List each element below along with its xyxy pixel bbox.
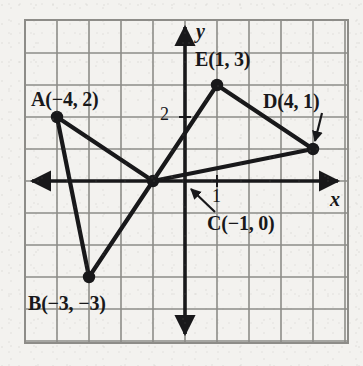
point-label-a: A(−4, 2) (31, 88, 99, 111)
point-label-e: E(1, 3) (195, 48, 250, 71)
plot-point-d (307, 143, 319, 155)
plot-point-a (51, 111, 63, 123)
point-label-b: B(−3, −3) (28, 292, 106, 315)
y-axis-tick-label-2: 2 (160, 104, 169, 125)
x-axis-label: x (330, 188, 340, 211)
y-axis-label: y (196, 20, 205, 43)
x-axis-tick-label-1: 1 (212, 186, 221, 207)
coordinate-plane-figure: A(−4, 2) B(−3, −3) C(−1, 0) D(4, 1) E(1,… (0, 0, 363, 366)
plot-point-c (147, 175, 159, 187)
point-label-d: D(4, 1) (263, 90, 319, 113)
point-label-c: C(−1, 0) (207, 212, 275, 235)
plot-point-b (83, 271, 95, 283)
plot-point-e (211, 79, 223, 91)
